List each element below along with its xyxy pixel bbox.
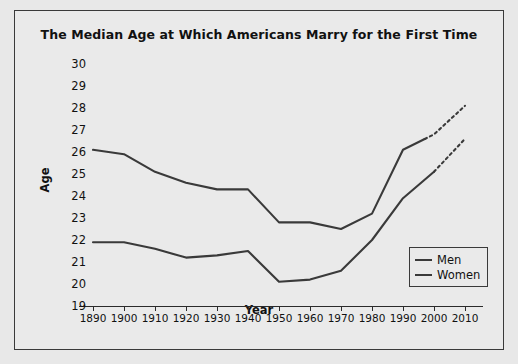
x-tick-mark [217,306,218,311]
y-tick-label: 28 [71,101,86,115]
x-tick-label: 1920 [173,312,200,324]
x-tick-label: 1900 [111,312,138,324]
x-tick-mark [341,306,342,311]
x-tick-label: 1910 [142,312,169,324]
y-tick-label: 30 [71,57,86,71]
y-tick-label: 23 [71,211,86,225]
x-tick-label: 2000 [421,312,448,324]
x-tick-mark [372,306,373,311]
legend-swatch-men [415,259,432,261]
x-tick-mark [93,306,94,311]
x-tick-mark [155,306,156,311]
y-tick-label: 19 [71,299,86,313]
y-tick-label: 29 [71,79,86,93]
y-tick-label: 20 [71,277,86,291]
series-line-men [93,139,425,229]
legend-label-women: Women [437,268,480,282]
legend-item-women: Women [415,267,480,282]
x-tick-label: 1940 [235,312,262,324]
legend-label-men: Men [437,253,461,267]
series-line-women [93,172,434,282]
y-tick-label: 27 [71,123,86,137]
y-axis-label: Age [38,168,52,193]
x-tick-label: 1970 [328,312,355,324]
x-tick-mark [434,306,435,311]
x-tick-label: 2010 [452,312,479,324]
x-tick-label: 1980 [359,312,386,324]
x-tick-label: 1950 [266,312,293,324]
x-tick-mark [310,306,311,311]
y-tick-label: 22 [71,233,86,247]
chart-legend: Men Women [409,247,488,287]
chart-figure: The Median Age at Which Americans Marry … [14,10,504,350]
x-tick-mark [403,306,404,311]
x-tick-mark [465,306,466,311]
x-tick-mark [248,306,249,311]
series-projection-men [425,106,465,139]
y-tick-label: 24 [71,189,86,203]
legend-swatch-women [415,274,432,276]
x-axis-line [79,306,483,307]
legend-item-men: Men [415,252,480,267]
x-tick-label: 1990 [390,312,417,324]
y-tick-label: 26 [71,145,86,159]
y-tick-label: 25 [71,167,86,181]
x-tick-mark [279,306,280,311]
x-tick-label: 1960 [297,312,324,324]
y-tick-label: 21 [71,255,86,269]
chart-title: The Median Age at Which Americans Marry … [15,27,503,42]
x-tick-mark [124,306,125,311]
x-tick-label: 1890 [80,312,107,324]
x-tick-label: 1930 [204,312,231,324]
series-projection-women [434,139,465,172]
x-tick-mark [186,306,187,311]
